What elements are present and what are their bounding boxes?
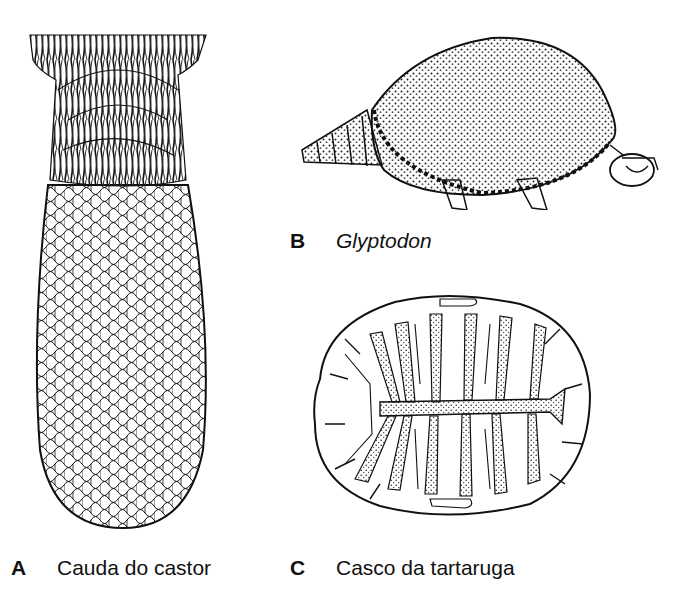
panel-a-beaver-tail-illustration bbox=[28, 30, 218, 530]
panel-a-letter: A bbox=[11, 556, 57, 580]
panel-b-caption-text: Glyptodon bbox=[336, 229, 432, 252]
panel-c-turtle-shell-illustration bbox=[300, 284, 600, 524]
panel-b-caption: BGlyptodon bbox=[290, 229, 432, 253]
panel-b-letter: B bbox=[290, 229, 336, 253]
panel-c-letter: C bbox=[290, 556, 336, 580]
panel-a-caption-text: Cauda do castor bbox=[57, 556, 211, 579]
panel-a-caption: ACauda do castor bbox=[11, 556, 211, 580]
panel-b-glyptodon-illustration bbox=[292, 30, 672, 210]
panel-c-caption: CCasco da tartaruga bbox=[290, 556, 515, 580]
panel-c-caption-text: Casco da tartaruga bbox=[336, 556, 515, 579]
figure-canvas: ACauda do castor BGlyptod bbox=[0, 0, 676, 589]
